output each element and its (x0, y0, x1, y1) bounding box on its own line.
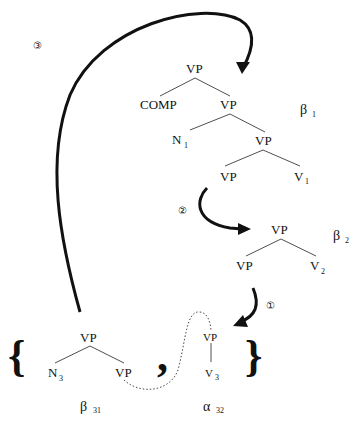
derivation-diagram: ③ VP COMP VP N 1 VP VP V 1 β 1 ② VP VP V… (0, 0, 359, 422)
node-v: V (310, 258, 320, 273)
node-n: N (172, 132, 182, 147)
subscript: 1 (305, 177, 309, 186)
tree-alpha32: VP V 3 α 32 (203, 331, 224, 415)
node-v: V (294, 169, 304, 184)
set-separator-comma: , (157, 332, 168, 381)
node-vp: VP (186, 61, 203, 76)
step-2-circled-number: ② (178, 205, 187, 216)
subscript: 2 (321, 267, 325, 276)
node-n: N (48, 365, 58, 380)
tree-label-beta1: β (300, 102, 307, 117)
tree-label-subscript: 32 (216, 406, 224, 415)
node-vp: VP (80, 330, 97, 345)
tree-label-subscript: 1 (312, 110, 316, 119)
tree-label-subscript: 2 (345, 236, 349, 245)
tree-label-alpha32: α (203, 399, 211, 414)
set-close-brace: } (245, 332, 262, 381)
subscript: 1 (184, 141, 188, 150)
node-vp: VP (220, 169, 237, 184)
node-v: V (205, 367, 213, 379)
step-3-circled-number: ③ (33, 40, 42, 51)
node-vp: VP (236, 258, 253, 273)
tree-label-beta31: β (80, 399, 87, 414)
arrow-step-3 (57, 13, 252, 312)
arrow-step-2-head (238, 223, 251, 235)
arrow-step-2 (200, 188, 242, 229)
tree-beta31: VP N 3 VP β 31 (48, 330, 132, 415)
set-open-brace: { (8, 332, 25, 381)
subscript: 3 (59, 374, 63, 383)
node-vp: VP (271, 222, 288, 237)
node-vp: VP (220, 97, 237, 112)
tree-beta2: VP VP V 2 β 2 (236, 222, 349, 276)
step-1-circled-number: ① (266, 300, 275, 311)
tree-label-subscript: 31 (93, 406, 101, 415)
node-vp: VP (203, 331, 217, 343)
node-vp: VP (255, 133, 272, 148)
tree-beta1: VP COMP VP N 1 VP VP V 1 β 1 (140, 61, 316, 186)
arrow-step-3-head (236, 62, 250, 74)
node-vp-foot: VP (115, 365, 132, 380)
node-comp: COMP (140, 97, 177, 112)
subscript: 3 (215, 373, 219, 382)
tree-label-beta2: β (333, 228, 340, 243)
